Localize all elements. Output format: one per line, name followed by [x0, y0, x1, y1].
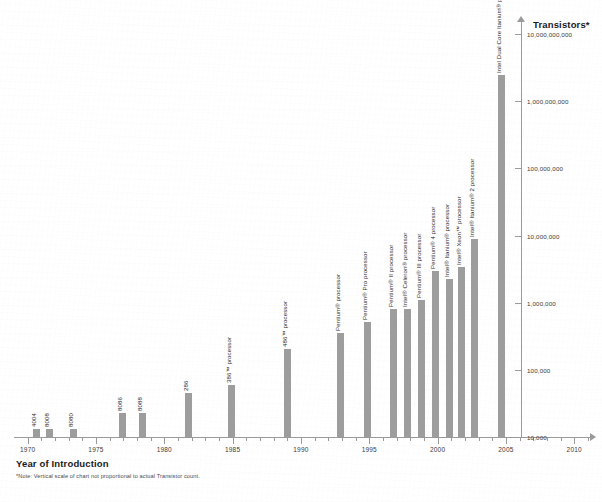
- y-axis-tick: [515, 101, 522, 102]
- x-axis-title: Year of Introduction: [16, 458, 109, 469]
- y-axis-line: [521, 22, 522, 438]
- x-axis-major-tick: [164, 437, 165, 444]
- x-axis-tick-label: 1990: [293, 446, 308, 453]
- y-axis-tick-label: 100,000,000: [527, 165, 563, 172]
- x-axis-minor-tick: [356, 437, 357, 441]
- bar-label: 4004: [30, 413, 37, 427]
- bar-label: 386™ processor: [225, 337, 232, 383]
- y-axis-tick-label: 10,000,000,000: [527, 31, 572, 38]
- chart-footnote: *Note: Vertical scale of chart not propo…: [16, 473, 200, 479]
- x-axis-tick-label: 1970: [20, 446, 35, 453]
- x-axis-minor-tick: [110, 437, 111, 441]
- y-axis-tick: [515, 370, 522, 371]
- bar-label: Pentium® Pro processor: [361, 251, 368, 320]
- y-axis-tick-label: 1,000,000,000: [527, 98, 569, 105]
- x-axis-major-tick: [369, 437, 370, 444]
- y-axis-tick: [515, 168, 522, 169]
- y-axis-tick: [515, 236, 522, 237]
- x-axis-major-tick: [301, 437, 302, 444]
- x-axis-major-tick: [506, 437, 507, 444]
- x-axis-major-tick: [438, 437, 439, 444]
- bar-label: 8088: [136, 397, 143, 411]
- x-axis-tick-label: 1975: [88, 446, 103, 453]
- bar: 8088: [139, 413, 146, 437]
- bar: Pentium® III processor: [418, 300, 425, 437]
- x-axis-minor-tick: [492, 437, 493, 441]
- x-axis-major-tick: [233, 437, 234, 444]
- x-axis-minor-tick: [588, 437, 589, 441]
- bar-label: Pentium® 4 processor: [429, 207, 436, 269]
- y-axis-arrow-icon: [517, 16, 525, 22]
- y-axis-tick: [515, 437, 522, 438]
- bar: 8008: [46, 429, 53, 437]
- bar-label: Intel Dual Core Itanium® processor: [495, 0, 502, 73]
- bar: Pentium® 4 processor: [432, 271, 439, 437]
- paper-texture: [0, 0, 602, 502]
- x-axis-minor-tick: [219, 437, 220, 441]
- y-axis-tick: [515, 303, 522, 304]
- bar-label: Intel® Itanium® processor: [443, 204, 450, 277]
- x-axis-minor-tick: [315, 437, 316, 441]
- x-axis-minor-tick: [397, 437, 398, 441]
- bar: Pentium® II processor: [390, 309, 397, 437]
- bar: 486™ processor: [284, 349, 291, 437]
- bar-label: Pentium® III processor: [415, 234, 422, 298]
- x-axis-major-tick: [28, 437, 29, 444]
- bar: 286: [185, 393, 192, 437]
- x-axis-minor-tick: [260, 437, 261, 441]
- x-axis-minor-tick: [82, 437, 83, 441]
- x-axis-minor-tick: [192, 437, 193, 441]
- bar-label: 8086: [116, 397, 123, 411]
- x-axis-minor-tick: [137, 437, 138, 441]
- y-axis-tick-label: 1,000,000: [527, 299, 556, 306]
- x-axis-minor-tick: [342, 437, 343, 441]
- bar: Intel® Itanium® 2 processor: [471, 239, 478, 437]
- bar-label: Intel® Celeron® processor: [401, 233, 408, 307]
- x-axis-tick-label: 2010: [567, 446, 582, 453]
- x-axis-minor-tick: [178, 437, 179, 441]
- x-axis-minor-tick: [424, 437, 425, 441]
- x-axis-minor-tick: [246, 437, 247, 441]
- x-axis-minor-tick: [383, 437, 384, 441]
- x-axis-arrow-icon: [590, 433, 596, 441]
- bar-label: Pentium® II processor: [387, 245, 394, 307]
- x-axis-minor-tick: [561, 437, 562, 441]
- bar-label: 286: [182, 381, 189, 391]
- x-axis-tick-label: 1995: [362, 446, 377, 453]
- bar: Pentium® Pro processor: [364, 322, 371, 437]
- bar-label: Intel® Itanium® 2 processor: [468, 159, 475, 237]
- x-axis-minor-tick: [123, 437, 124, 441]
- x-axis-minor-tick: [151, 437, 152, 441]
- x-axis-minor-tick: [69, 437, 70, 441]
- x-axis-tick-label: 1980: [157, 446, 172, 453]
- x-axis-minor-tick: [479, 437, 480, 441]
- bar: 4004: [33, 429, 40, 437]
- x-axis-minor-tick: [41, 437, 42, 441]
- x-axis-minor-tick: [410, 437, 411, 441]
- y-axis-title: Transistors*: [533, 19, 590, 30]
- bar: Intel Dual Core Itanium® processor: [498, 75, 505, 437]
- bar: Intel® Itanium® processor: [446, 279, 453, 437]
- x-axis-minor-tick: [287, 437, 288, 441]
- bar-label: Intel® Xeon™ processor: [455, 196, 462, 265]
- x-axis-minor-tick: [328, 437, 329, 441]
- bar: Pentium® processor: [337, 333, 344, 437]
- bar-label: 8008: [43, 413, 50, 427]
- x-axis-minor-tick: [55, 437, 56, 441]
- x-axis-major-tick: [96, 437, 97, 444]
- y-axis-tick: [515, 34, 522, 35]
- bar-label: 8080: [67, 413, 74, 427]
- bar: 8086: [119, 413, 126, 437]
- y-axis-tick-label: 10,000,000: [527, 232, 559, 239]
- y-axis-tick-label: 10,000: [527, 434, 547, 441]
- x-axis-minor-tick: [274, 437, 275, 441]
- bar-label: 486™ processor: [281, 301, 288, 347]
- bar: 8080: [70, 429, 77, 437]
- bar: 386™ processor: [228, 385, 235, 437]
- x-axis-minor-tick: [465, 437, 466, 441]
- bar-label: Pentium® processor: [334, 274, 341, 331]
- x-axis-tick-label: 1985: [225, 446, 240, 453]
- x-axis-major-tick: [574, 437, 575, 444]
- y-axis-tick-label: 100,000: [527, 366, 550, 373]
- x-axis-minor-tick: [451, 437, 452, 441]
